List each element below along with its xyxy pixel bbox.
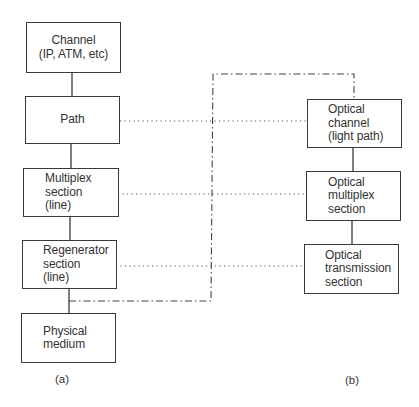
box-physical-medium: Physical medium — [21, 313, 116, 363]
box-optical-multiplex-line-1: Optical — [328, 176, 365, 190]
box-path-line-1: Path — [60, 113, 84, 127]
box-regenerator-line-1: Regenerator — [43, 244, 109, 258]
box-regenerator-section: Regenerator section (line) — [22, 240, 117, 289]
box-optical-transmission-line-2: transmission — [325, 262, 391, 276]
box-regenerator-line-3: (line) — [43, 271, 69, 285]
box-channel-line-1: Channel — [51, 34, 95, 48]
box-optical-transmission-section: Optical transmission section — [304, 244, 399, 294]
box-multiplex-line-2: section — [45, 186, 82, 200]
box-optical-channel-line-2: channel — [328, 117, 369, 131]
box-multiplex-section: Multiplex section (line) — [23, 168, 119, 217]
box-path: Path — [25, 96, 120, 144]
box-regenerator-line-2: section — [43, 258, 80, 272]
box-optical-multiplex-line-2: multiplex — [328, 189, 374, 203]
box-optical-channel: Optical channel (light path) — [307, 99, 402, 148]
box-physical-line-1: Physical — [43, 325, 87, 339]
box-channel-line-2: (IP, ATM, etc) — [39, 48, 109, 62]
caption-a: (a) — [55, 373, 69, 385]
layer-mapping-diagram: Channel (IP, ATM, etc) Path Multiplex se… — [0, 0, 419, 407]
box-physical-line-2: medium — [43, 338, 85, 352]
box-optical-channel-line-1: Optical — [328, 103, 365, 117]
box-optical-multiplex-line-3: section — [328, 203, 365, 217]
box-optical-transmission-line-1: Optical — [325, 249, 362, 263]
box-multiplex-line-3: (line) — [45, 199, 71, 213]
caption-b: (b) — [345, 374, 359, 386]
box-multiplex-line-1: Multiplex — [45, 172, 91, 186]
box-optical-multiplex-section: Optical multiplex section — [306, 171, 401, 221]
box-optical-transmission-line-3: section — [325, 276, 362, 290]
box-channel: Channel (IP, ATM, etc) — [26, 22, 121, 73]
box-optical-channel-line-3: (light path) — [328, 130, 384, 144]
